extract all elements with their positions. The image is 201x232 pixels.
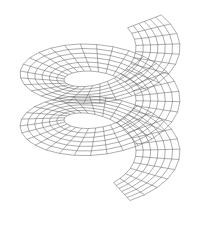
helical-wireframe-figure (0, 0, 201, 232)
helical-surface-wireframe (0, 0, 201, 232)
wireframe-grid-lines (20, 15, 180, 201)
